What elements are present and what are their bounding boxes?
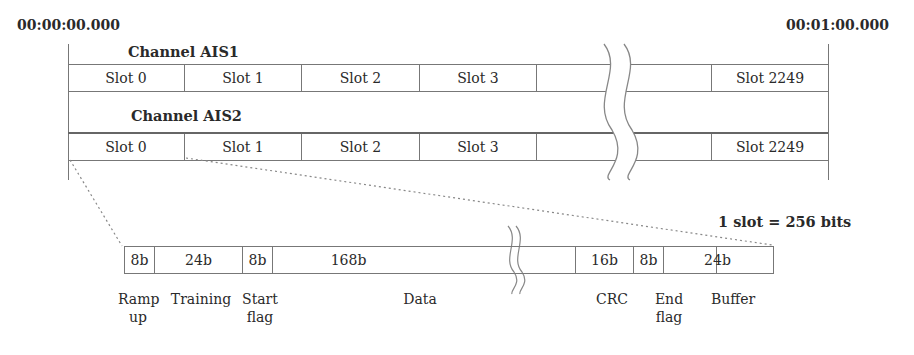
field-ramp-up-line2: up: [118, 308, 158, 326]
zoom-line-left: [70, 160, 122, 246]
field-training-bits: 24b: [155, 247, 243, 273]
field-start-flag-line2: flag: [240, 308, 280, 326]
field-buffer-label: Buffer: [706, 290, 760, 308]
field-data-label: Data: [390, 290, 450, 308]
field-ramp-up-line1: Ramp: [118, 290, 158, 308]
field-ramp-up-bits: 8b: [125, 247, 155, 273]
field-crc-label: CRC: [592, 290, 632, 308]
field-start-flag-line1: Start: [240, 290, 280, 308]
field-end-flag-line1: End: [652, 290, 686, 308]
field-start-flag-label: Start flag: [240, 290, 280, 326]
field-end-flag-label: End flag: [652, 290, 686, 326]
slot-size-caption: 1 slot = 256 bits: [718, 213, 851, 230]
field-training-label: Training: [166, 290, 236, 308]
field-end-flag-line2: flag: [652, 308, 686, 326]
break-mask: [604, 44, 638, 180]
slot-detail-bar: 8b 24b 8b 168b 16b 8b 24b: [124, 246, 774, 274]
field-buffer-bits: 24b: [664, 247, 771, 273]
zoom-line-right: [186, 158, 772, 245]
field-end-flag-bits: 8b: [634, 247, 664, 273]
field-data-bits-text: 168b: [331, 252, 367, 268]
field-crc-bits: 16b: [576, 247, 634, 273]
field-ramp-up-label: Ramp up: [118, 290, 158, 326]
field-start-flag-bits: 8b: [243, 247, 273, 273]
